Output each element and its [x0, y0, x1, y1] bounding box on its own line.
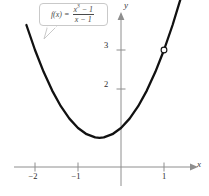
y-axis-label: y [124, 1, 128, 10]
x-tick-label--2: −2 [26, 172, 40, 181]
formula-lhs: f(x) = [51, 10, 70, 19]
formula-fraction: x3 − 1 x − 1 [71, 6, 95, 24]
function-formula-callout: f(x) = x3 − 1 x − 1 [39, 3, 108, 26]
figure-container: f(x) = x3 − 1 x − 1 y x 3 2 −2 −1 1 [0, 0, 209, 196]
callout-tail [44, 27, 57, 40]
formula-denominator: x − 1 [73, 14, 94, 24]
numerator-tail: − 1 [80, 5, 93, 14]
open-circle-discontinuity [161, 47, 167, 53]
x-tick-label-1: 1 [159, 172, 169, 181]
x-axis-label: x [197, 160, 201, 169]
formula-numerator: x3 − 1 [71, 6, 95, 15]
y-tick-label-3: 3 [104, 41, 108, 50]
y-tick-label-2: 2 [104, 80, 108, 89]
x-tick-label--1: −1 [69, 172, 83, 181]
y-axis-arrowhead [118, 12, 125, 20]
graph-canvas [0, 0, 209, 196]
formula-text: f(x) = x3 − 1 x − 1 [40, 4, 107, 25]
